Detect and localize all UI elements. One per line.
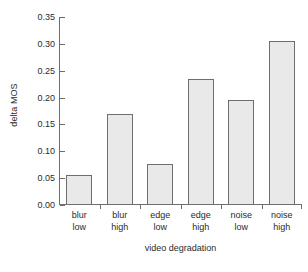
x-tick-label-line2: low	[72, 221, 87, 233]
y-tick-mark	[60, 151, 65, 152]
x-tick-label-line2: high	[271, 221, 293, 233]
x-axis-tick-labels: blurlowblurhighedgelowedgehighnoiselowno…	[59, 209, 302, 241]
y-tick-mark	[60, 71, 65, 72]
x-tick-label-line2: low	[150, 221, 170, 233]
y-axis-tick-labels: 0.000.050.100.150.200.250.300.35	[22, 17, 55, 205]
x-tick-label-line2: high	[191, 221, 211, 233]
y-tick-label: 0.15	[37, 120, 55, 129]
y-tick-label: 0.35	[37, 13, 55, 22]
x-tick-label: noisehigh	[271, 209, 293, 233]
y-tick-label: 0.10	[37, 147, 55, 156]
bar	[147, 164, 173, 204]
x-tick-label-line1: blur	[112, 210, 127, 220]
x-tick-label-line1: noise	[230, 210, 252, 220]
y-tick-label: 0.00	[37, 201, 55, 210]
x-tick-label: edgelow	[150, 209, 170, 233]
x-tick-label: edgehigh	[191, 209, 211, 233]
bar	[107, 114, 133, 204]
y-axis-line	[59, 17, 60, 205]
bar	[188, 79, 214, 204]
x-tick-label-line1: blur	[72, 210, 87, 220]
bar	[66, 175, 92, 204]
bar	[269, 41, 295, 204]
x-tick-label-line1: edge	[150, 210, 170, 220]
y-tick-mark	[60, 17, 65, 18]
y-tick-label: 0.30	[37, 39, 55, 48]
x-tick-label: noiselow	[230, 209, 252, 233]
y-tick-label: 0.05	[37, 174, 55, 183]
x-tick-label-line2: high	[111, 221, 128, 233]
bar	[228, 100, 254, 204]
x-tick-label-line1: noise	[271, 210, 293, 220]
y-axis-title: delta MOS	[4, 0, 24, 210]
y-tick-mark	[60, 178, 65, 179]
x-tick-label: blurhigh	[111, 209, 128, 233]
x-tick-label: blurlow	[72, 209, 87, 233]
y-tick-mark	[60, 98, 65, 99]
y-tick-mark	[60, 205, 65, 206]
x-tick-label-line1: edge	[191, 210, 211, 220]
y-tick-mark	[60, 44, 65, 45]
y-tick-mark	[60, 124, 65, 125]
x-axis-title: video degradation	[59, 243, 302, 253]
bar-chart-figure: delta MOS 0.000.050.100.150.200.250.300.…	[0, 0, 308, 272]
y-tick-label: 0.20	[37, 93, 55, 102]
y-axis-title-text: delta MOS	[9, 83, 19, 126]
y-tick-label: 0.25	[37, 66, 55, 75]
x-tick-label-line2: low	[230, 221, 252, 233]
plot-area	[59, 17, 302, 205]
